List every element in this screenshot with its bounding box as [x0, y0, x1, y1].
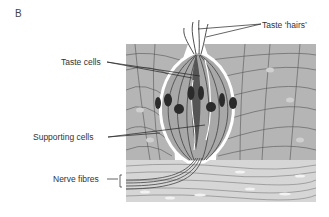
nerve-bracket [120, 175, 122, 187]
label-taste-hairs: Taste ‘hairs’ [262, 20, 307, 30]
label-supporting-cells: Supporting cells [33, 132, 93, 142]
label-taste-cells: Taste cells [61, 57, 101, 67]
taste-bud-diagram [0, 0, 329, 217]
taste-hairs [184, 20, 208, 54]
label-nerve-fibres: Nerve fibres [53, 174, 99, 184]
